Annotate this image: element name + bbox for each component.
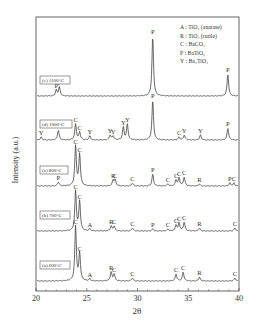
peak-label: P <box>57 174 61 181</box>
peak-label: Y <box>39 129 44 136</box>
peak-label: Y <box>111 128 116 135</box>
x-tick-label: 35 <box>184 294 192 303</box>
xrd-trace <box>37 190 238 232</box>
peak-label: C <box>232 175 236 182</box>
peak-label: C <box>73 218 77 225</box>
y-axis-label: Intensity (a.u.) <box>11 136 20 183</box>
peak-label: P <box>151 28 155 35</box>
x-axis: 2025303540 <box>32 288 243 303</box>
sample-label: (a) 600°C <box>42 263 62 268</box>
legend-entry: Y : Ba₂TiO₄ <box>180 58 208 64</box>
peak-label: C <box>233 220 237 227</box>
peak-label: C <box>166 176 170 183</box>
legend-entry: R : TiO₂ (rutile) <box>180 33 217 40</box>
legend-entry: P : BaTiO₃ <box>180 50 205 56</box>
peak-label: Y <box>125 116 130 123</box>
series-3: CCARCCPCCCCRC(b) 700°C <box>37 183 238 231</box>
legend: A : TiO₂ (anatase)R : TiO₂ (rutile)C : B… <box>180 24 222 64</box>
xrd-chart: PPPP(e) 1100°CYPCCYYYYYPCYYP(d) 1000°CPC… <box>0 0 256 334</box>
peak-label: C <box>112 218 116 225</box>
peak-label: C <box>181 264 185 271</box>
sample-label: (e) 1100°C <box>42 78 65 83</box>
series-group: PPPP(e) 1100°CYPCCYYYYYPCYYP(d) 1000°CPC… <box>37 28 238 281</box>
peak-label: C <box>166 221 170 228</box>
x-tick-label: 20 <box>32 294 40 303</box>
legend-entry: C : BaCO₃ <box>180 41 205 47</box>
peak-label: Y <box>87 128 92 135</box>
peak-label: Y <box>198 127 203 134</box>
peak-label: P <box>226 66 230 73</box>
peak-label: C <box>177 215 181 222</box>
xrd-trace <box>37 225 238 281</box>
sample-label: (d) 1000°C <box>42 122 65 127</box>
peak-label: C <box>174 266 178 273</box>
peak-label: C <box>177 170 181 177</box>
peak-label: C <box>113 172 117 179</box>
peak-label: C <box>77 245 81 252</box>
sample-label: (c) 800°C <box>42 168 62 173</box>
peak-label: A <box>87 221 92 228</box>
sample-label: (b) 700°C <box>42 213 63 218</box>
legend-entry: A : TiO₂ (anatase) <box>180 24 222 31</box>
x-tick-label: 40 <box>235 294 243 303</box>
peak-label: P <box>151 166 155 173</box>
peak-label: C <box>77 146 81 153</box>
peak-label: C <box>130 270 134 277</box>
peak-label: P <box>151 92 155 99</box>
series-1: YPCCYYYYYPCYYP(d) 1000°C <box>37 92 238 140</box>
plot-frame <box>36 17 239 291</box>
peak-label: A <box>87 271 92 278</box>
series-4: CCARCCCCRC(a) 600°C <box>37 218 238 281</box>
peak-label: R <box>197 176 202 183</box>
peak-label: C <box>77 124 81 131</box>
peak-label: C <box>182 214 186 221</box>
peak-label: C <box>130 175 134 182</box>
peak-label: C <box>73 138 77 145</box>
peak-label: C <box>77 193 81 200</box>
peak-label: R <box>197 220 202 227</box>
xrd-trace <box>37 39 238 96</box>
peak-label: P <box>151 221 155 228</box>
peak-label: C <box>73 116 77 123</box>
peak-label: C <box>233 270 237 277</box>
xrd-trace <box>37 145 238 187</box>
x-tick-label: 30 <box>134 294 142 303</box>
plot-border <box>36 17 239 291</box>
peak-label: C <box>112 266 116 273</box>
peak-label: C <box>182 169 186 176</box>
series-2: PCCRCCPCCCCRPC(c) 800°C <box>37 138 238 186</box>
peak-label: C <box>73 183 77 190</box>
peak-label: Y <box>182 127 187 134</box>
peak-label: C <box>177 129 181 136</box>
x-tick-label: 25 <box>83 294 91 303</box>
peak-label: R <box>197 269 202 276</box>
peak-label: P <box>226 120 230 127</box>
x-axis-label: 2θ <box>133 306 142 316</box>
peak-label: C <box>130 220 134 227</box>
